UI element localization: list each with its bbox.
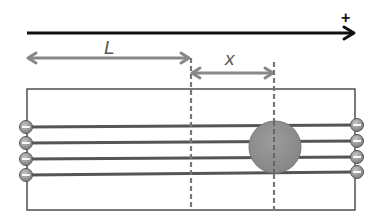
negative-charge-icon — [20, 137, 33, 150]
positive-direction-label: + — [341, 10, 350, 26]
negative-charge-icon — [20, 153, 33, 166]
diagram: + L x — [0, 0, 382, 220]
dimension-arrow-x — [192, 68, 273, 78]
negative-charge-icon — [20, 169, 33, 182]
negative-charge-icon — [351, 166, 364, 179]
label-L: L — [104, 38, 115, 57]
right-charges — [351, 119, 364, 179]
label-x: x — [225, 49, 235, 68]
left-charges — [20, 121, 33, 182]
negative-charge-icon — [20, 121, 33, 134]
negative-charge-icon — [351, 151, 364, 164]
negative-charge-icon — [351, 119, 364, 132]
negative-charge-icon — [351, 135, 364, 148]
diagram-canvas — [0, 0, 382, 220]
axis-arrow — [27, 27, 354, 39]
